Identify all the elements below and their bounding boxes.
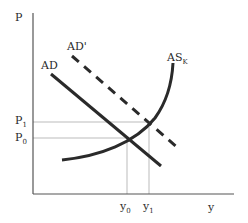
y1-label: y1	[142, 200, 154, 215]
ad-as-diagram: P y AD AD' ASK P1 P0 y0 y1	[0, 0, 248, 223]
as-k-label: ASK	[166, 51, 188, 66]
as-k-curve	[62, 63, 173, 160]
ad-label: AD	[40, 59, 58, 72]
ad-prime-label: AD'	[66, 40, 87, 53]
y0-label: y0	[119, 200, 131, 215]
p1-label: P1	[15, 114, 27, 129]
x-axis-label: y	[207, 201, 215, 214]
y-axis-label: P	[15, 11, 23, 24]
p0-label: P0	[15, 131, 27, 146]
